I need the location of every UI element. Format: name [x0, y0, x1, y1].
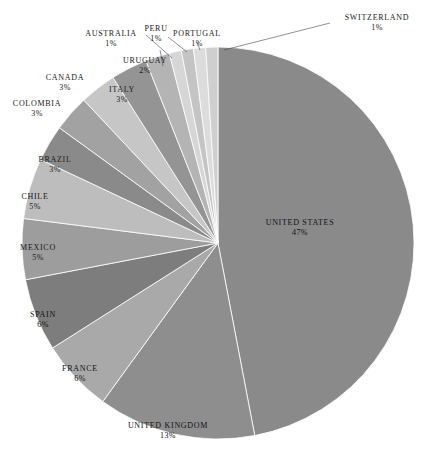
pie-chart-page: UNITED STATES47%UNITED KINGDOM13%FRANCE6… [0, 0, 444, 454]
leader-line-australia [146, 35, 172, 58]
pie-chart-figure [0, 0, 444, 454]
leader-line-switzerland [224, 23, 330, 50]
pie-wedge-group [22, 47, 414, 439]
pie-slice-united-states[interactable] [218, 47, 414, 436]
leader-line-peru [168, 37, 187, 52]
